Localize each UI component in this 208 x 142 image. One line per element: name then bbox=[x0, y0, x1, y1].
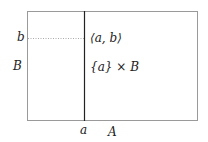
label-a: a bbox=[80, 124, 87, 136]
label-A-axis: A bbox=[108, 126, 117, 138]
label-B-axis: B bbox=[13, 60, 22, 72]
product-set-diagram: b B ⟨a, b⟩ {a} × B a A bbox=[0, 0, 208, 142]
label-point-ab: ⟨a, b⟩ bbox=[90, 32, 122, 44]
label-b: b bbox=[17, 31, 25, 43]
fibre-B: B bbox=[130, 60, 139, 74]
fibre-set: {a} bbox=[90, 60, 112, 74]
times-symbol: × bbox=[116, 60, 126, 74]
label-fibre: {a} × B bbox=[90, 61, 139, 73]
